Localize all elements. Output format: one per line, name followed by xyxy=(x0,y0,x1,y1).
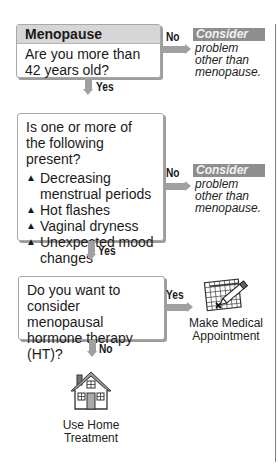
step3-question-box: Do you want to consider menopausal hormo… xyxy=(18,276,165,340)
step3-yes-label: Yes xyxy=(166,288,184,302)
symptom-item: ▲Decreasing menstrual periods xyxy=(26,170,155,202)
step3-yes-arrow xyxy=(164,304,188,311)
step2-yes-arrow xyxy=(88,241,95,255)
step1-yes-label: Yes xyxy=(96,80,114,94)
step1-yes-arrow xyxy=(85,78,92,90)
step1-no-arrow xyxy=(160,46,186,53)
consider-tag: Consider xyxy=(193,164,265,177)
step2-no-outcome: Consider problem other than menopause. xyxy=(193,164,265,214)
house-icon xyxy=(68,369,114,413)
consider-text: problem other than menopause. xyxy=(193,42,265,78)
make-appointment-caption: Make Medical Appointment xyxy=(186,317,266,343)
step2-question: Is one or more of the following present? xyxy=(18,114,163,169)
symptom-item: ▲Hot flashes xyxy=(26,202,155,218)
calendar-pencil-icon xyxy=(200,275,252,315)
consider-text: problem other than menopause. xyxy=(193,178,265,214)
step3-no-label: No xyxy=(99,342,113,356)
triangle-bullet-icon: ▲ xyxy=(26,234,36,250)
step1-question: Are you more than 42 years old? xyxy=(17,44,160,80)
consider-tag: Consider xyxy=(193,28,265,41)
step1-title: Menopause xyxy=(17,25,160,44)
step2-no-arrow xyxy=(163,183,186,190)
step2-question-box: Is one or more of the following present?… xyxy=(17,113,164,241)
triangle-bullet-icon: ▲ xyxy=(26,218,36,234)
right-divider-line xyxy=(275,24,276,462)
step1-no-outcome: Consider problem other than menopause. xyxy=(193,28,265,78)
triangle-bullet-icon: ▲ xyxy=(26,170,36,186)
triangle-bullet-icon: ▲ xyxy=(26,202,36,218)
step1-question-box: Menopause Are you more than 42 years old… xyxy=(16,24,161,78)
symptom-item: ▲Vaginal dryness xyxy=(26,218,155,234)
home-treatment-caption: Use Home Treatment xyxy=(51,419,131,445)
step3-no-arrow xyxy=(89,340,96,352)
step2-no-label: No xyxy=(166,166,180,180)
step1-no-label: No xyxy=(166,30,180,44)
step2-yes-label: Yes xyxy=(98,244,116,258)
